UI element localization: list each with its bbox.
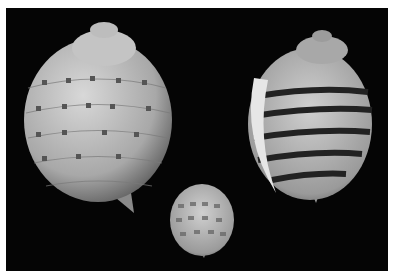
banded-tun-shell — [248, 30, 372, 203]
large-spotted-tun-shell — [24, 22, 172, 213]
shell-photo — [6, 8, 388, 271]
small-spotted-tun-shell — [170, 184, 234, 258]
shells-illustration — [6, 8, 388, 271]
